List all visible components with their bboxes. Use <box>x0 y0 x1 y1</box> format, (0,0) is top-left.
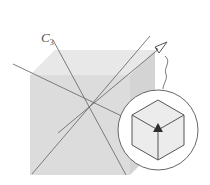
axis-label-main: C <box>41 30 50 45</box>
connector-curve <box>163 56 168 89</box>
axis-label-subscript: 3 <box>50 38 54 47</box>
inset-view <box>118 90 198 170</box>
eye-viewer-icon <box>155 42 167 53</box>
diagram-figure: C3 <box>0 0 210 185</box>
c3-axis-label: C3 <box>41 31 54 49</box>
cube-symmetry-diagram <box>0 0 210 185</box>
